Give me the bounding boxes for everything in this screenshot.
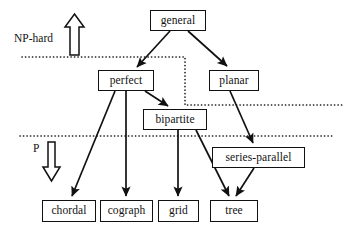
- node-series-parallel-label: series-parallel: [226, 152, 292, 164]
- node-cograph[interactable]: cograph: [100, 200, 153, 222]
- node-planar-label: planar: [219, 75, 248, 87]
- edge-planar-series-parallel: [230, 91, 253, 143]
- node-chordal[interactable]: chordal: [42, 200, 96, 222]
- node-perfect[interactable]: perfect: [98, 70, 154, 91]
- node-series-parallel[interactable]: series-parallel: [212, 147, 305, 168]
- edge-perfect-bipartite: [145, 91, 168, 106]
- node-planar[interactable]: planar: [209, 70, 259, 91]
- node-grid-label: grid: [169, 205, 188, 217]
- node-general-label: general: [161, 15, 196, 27]
- edge-perfect-chordal: [72, 91, 115, 196]
- node-general[interactable]: general: [150, 10, 206, 31]
- node-grid[interactable]: grid: [158, 200, 199, 222]
- node-bipartite-label: bipartite: [155, 114, 194, 126]
- node-cograph-label: cograph: [108, 205, 146, 217]
- edge-series-parallel-tree: [236, 168, 254, 196]
- node-chordal-label: chordal: [51, 205, 86, 217]
- node-tree[interactable]: tree: [210, 200, 258, 222]
- node-bipartite[interactable]: bipartite: [143, 109, 207, 130]
- node-perfect-label: perfect: [110, 75, 143, 87]
- edge-general-planar: [188, 31, 227, 66]
- node-tree-label: tree: [225, 205, 243, 217]
- p-arrow-icon: [43, 142, 60, 181]
- edge-general-perfect: [137, 31, 170, 67]
- np-hard-arrow-icon: [65, 14, 84, 55]
- region-label-p: P: [33, 143, 39, 155]
- region-label-np-hard: NP-hard: [14, 33, 53, 45]
- diagram-canvas: general perfect planar bipartite series-…: [0, 0, 344, 232]
- np-hard-boundary: [22, 57, 344, 105]
